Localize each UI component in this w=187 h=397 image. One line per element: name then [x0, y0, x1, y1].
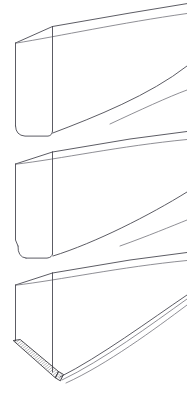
block-middle-front-face	[16, 152, 53, 258]
block-top-front-face	[16, 27, 53, 137]
figure-canvas	[0, 0, 187, 397]
isometric-slabs-drawing	[0, 0, 187, 397]
